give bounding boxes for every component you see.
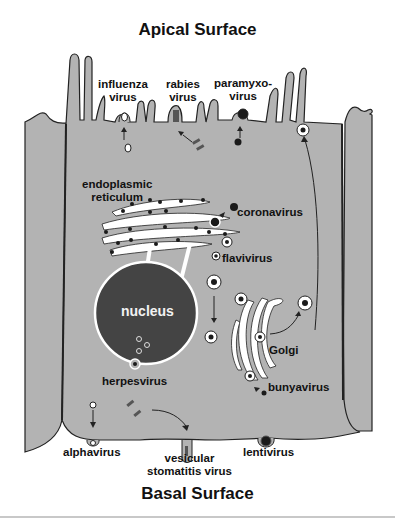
label-influenza-virus: influenza virus [98,78,148,104]
label-rabies-virus: rabies virus [166,78,200,104]
label-alphavirus: alphavirus [63,446,121,459]
label-coronavirus: coronavirus [237,206,303,219]
label-flavivirus: flavivirus [222,252,273,265]
label-paramyxovirus: paramyxo- virus [214,77,272,103]
label-vesicular-stomatitis-virus: vesicular stomatitis virus [147,452,232,478]
bottom-divider [0,516,395,518]
label-nucleus: nucleus [121,305,174,318]
label-endoplasmic-reticulum: endoplasmic reticulum [82,178,152,204]
label-lentivirus: lentivirus [243,446,294,459]
label-herpesvirus: herpesvirus [102,375,167,388]
label-golgi: Golgi [269,344,298,357]
right-neighbor-cell [343,107,372,431]
basal-surface-title: Basal Surface [0,484,395,504]
label-bunyavirus: bunyavirus [268,381,329,394]
